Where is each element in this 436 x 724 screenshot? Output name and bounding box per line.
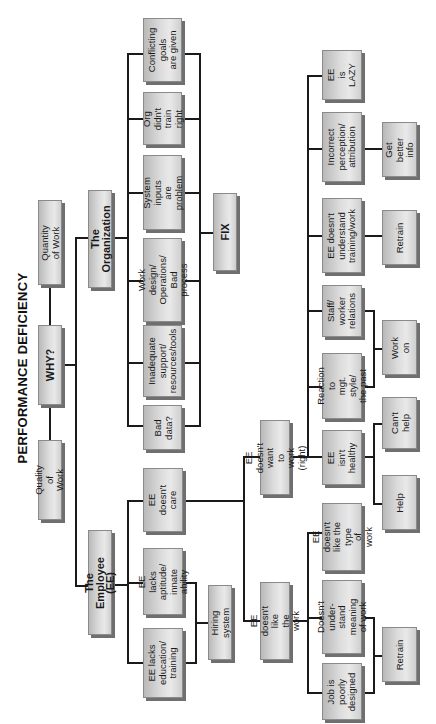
connector — [199, 232, 213, 234]
connector — [307, 75, 322, 77]
node-quality-of-work: Quality of Work — [38, 440, 62, 520]
connector — [362, 235, 382, 237]
connector — [182, 53, 200, 55]
connector — [127, 662, 143, 664]
connector — [127, 425, 143, 427]
connector — [49, 405, 51, 440]
node-ee-lacks-education: EE lacks education/ training — [143, 628, 183, 698]
node-doesnt-understand-meaning: Doesn't under- stand meaning of work — [322, 580, 362, 654]
connector — [195, 622, 208, 624]
connector — [307, 532, 309, 694]
connector — [362, 148, 382, 150]
node-org-didnt-train: Org didn't train right — [143, 92, 182, 145]
node-work-design: Work design/ Operations/ Bad process — [143, 238, 182, 322]
node-why: WHY? — [38, 325, 62, 405]
connector — [182, 118, 200, 120]
connector — [307, 456, 322, 458]
connector — [183, 500, 244, 502]
connector — [127, 362, 143, 364]
connector — [127, 500, 143, 502]
node-retrain-2: Retrain — [382, 627, 417, 682]
node-help: Help — [382, 475, 417, 530]
node-quantity-of-work: Quantity of Work — [38, 200, 62, 285]
node-inadequate-support: Inadequate support/ resources/tools — [143, 325, 182, 397]
node-conflicting-goals: Conflicting goals are given — [143, 18, 182, 82]
connector — [182, 362, 200, 364]
connector — [307, 75, 309, 458]
connector — [75, 237, 88, 239]
connector — [307, 310, 322, 312]
node-retrain-1: Retrain — [382, 210, 417, 265]
node-hiring-system: Hiring system — [208, 585, 232, 660]
node-reaction-to-mgt-style: Reaction to mgt. style/ the past — [322, 353, 362, 419]
connector — [75, 237, 77, 587]
node-bad-data: Bad data? — [143, 405, 182, 450]
connector — [127, 53, 143, 55]
node-cant-help: Can't help — [382, 397, 417, 449]
node-the-employee: The Employee (EE) — [88, 530, 112, 635]
node-ee-lacks-aptitude: EE lacks aptitude/ innate ability — [143, 548, 183, 615]
connector — [182, 192, 200, 194]
node-ee-doesnt-want-to-work: EE doesn't want to work (right) — [260, 420, 290, 495]
node-system-inputs: System inputs are problem — [143, 155, 182, 230]
node-get-better-info: Get better info — [382, 122, 417, 177]
node-incorrect-perception: Incorrect perception/ attribution — [322, 112, 362, 182]
node-fix: FIX — [213, 193, 237, 271]
connector — [307, 148, 322, 150]
connector — [49, 285, 51, 325]
connector — [127, 53, 129, 427]
connector — [182, 425, 200, 427]
connector — [373, 423, 382, 425]
node-ee-isnt-healthy: EE isn't healthy — [322, 430, 362, 485]
connector — [373, 503, 382, 505]
connector — [373, 655, 382, 657]
connector — [373, 423, 375, 505]
connector — [307, 692, 322, 694]
node-ee-doesnt-understand-training: EE doesn't understand training/work — [322, 198, 362, 273]
connector — [62, 364, 76, 366]
connector — [243, 456, 245, 622]
diagram-title: PERFORMANCE DEFICIENCY — [15, 273, 30, 464]
connector — [199, 53, 201, 427]
connector — [373, 348, 382, 350]
node-ee-is-lazy: EE is LAZY — [322, 50, 362, 100]
node-work-on: Work on — [382, 320, 417, 375]
node-ee-doesnt-like-the-work: EE doesn't like the work — [260, 582, 290, 660]
connector — [112, 237, 128, 239]
node-ee-doesnt-like-type: EE doesn't like the type of work — [322, 503, 362, 571]
node-staff-worker-relations: Staff/ worker relations — [322, 285, 362, 337]
connector — [307, 235, 322, 237]
node-ee-doesnt-care: EE doesn't care — [143, 468, 183, 532]
node-the-organization: The Organization — [88, 190, 112, 288]
node-job-poorly-designed: Job is poorly designed — [322, 663, 362, 720]
